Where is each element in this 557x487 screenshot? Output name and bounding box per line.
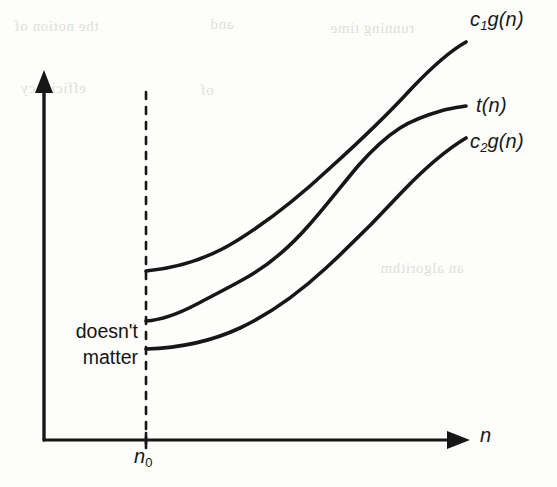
- curve-label-tn: t(n): [476, 94, 507, 119]
- x-axis-label: n: [480, 424, 491, 447]
- doesnt-matter-note: doesn't matter: [20, 318, 138, 370]
- doesnt-matter-note-line2: matter: [20, 344, 138, 370]
- curve-label-c2gn-tail: g(n): [487, 130, 523, 152]
- curve-label-c2gn-base: c: [470, 130, 480, 152]
- figure-canvas: the notion of and running time efficienc…: [0, 0, 557, 487]
- x-axis-tick-label-n0: n0: [134, 445, 152, 470]
- curve-c2gn: [146, 138, 466, 349]
- curve-label-c1gn-tail: g(n): [487, 8, 523, 30]
- curve-label-c1gn: c1g(n): [470, 8, 524, 33]
- curve-c1gn: [146, 42, 466, 271]
- x-axis-tick-label-subscript: 0: [145, 455, 152, 470]
- x-axis-arrowhead: [447, 431, 470, 449]
- y-axis-arrowhead: [35, 70, 53, 93]
- doesnt-matter-note-line1: doesn't: [20, 318, 138, 344]
- curve-label-c1gn-base: c: [470, 8, 480, 30]
- diagram-svg: [0, 0, 557, 487]
- curve-label-c2gn: c2g(n): [470, 130, 524, 155]
- curve-tn: [146, 106, 466, 321]
- x-axis-tick-label-base: n: [134, 445, 145, 467]
- curve-label-tn-base: t(n): [476, 94, 507, 116]
